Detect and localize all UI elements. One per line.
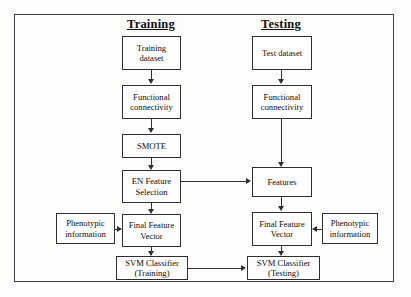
connector-phenotypic-test xyxy=(317,229,322,230)
node-smote[interactable]: SMOTE xyxy=(122,134,181,158)
node-en-feature-selection[interactable]: EN Feature Selection xyxy=(122,170,181,203)
node-svm-testing-line1: SVM Classifier xyxy=(250,258,317,268)
node-test-phenotypic-line2: information xyxy=(325,229,375,239)
node-train-functional-line2: connectivity xyxy=(125,102,178,112)
node-train-functional-connectivity[interactable]: Functional connectivity xyxy=(122,85,181,119)
node-train-final-vector-line1: Final Feature xyxy=(125,220,178,230)
connector-svm-train-to-test xyxy=(188,268,242,269)
node-test-functional-connectivity[interactable]: Functional connectivity xyxy=(252,85,312,119)
arrowhead-svm-train-to-test xyxy=(241,265,246,271)
node-test-phenotypic-information[interactable]: Phenotypic information xyxy=(322,213,378,244)
arrowhead-phenotypic-train xyxy=(117,226,122,232)
node-training-dataset-line2: dataset xyxy=(125,53,178,63)
diagram-canvas: Training Testing Training dataset Functi… xyxy=(0,0,411,297)
arrowhead-phenotypic-test xyxy=(312,226,317,232)
node-svm-training-line1: SVM Classifier xyxy=(119,258,185,268)
node-test-functional-line2: connectivity xyxy=(255,102,309,112)
node-train-phenotypic-line2: information xyxy=(59,229,112,239)
node-svm-training-line2: (Training) xyxy=(119,268,185,278)
node-features[interactable]: Features xyxy=(252,167,312,197)
node-training-dataset[interactable]: Training dataset xyxy=(122,36,181,70)
node-train-final-feature-vector[interactable]: Final Feature Vector xyxy=(122,214,181,247)
node-train-final-vector-line2: Vector xyxy=(125,231,178,241)
node-smote-label: SMOTE xyxy=(125,141,178,151)
node-en-feature-line2: Selection xyxy=(125,187,178,197)
node-test-phenotypic-line1: Phenotypic xyxy=(325,218,375,228)
node-svm-classifier-testing[interactable]: SVM Classifier (Testing) xyxy=(247,256,320,280)
column-title-testing: Testing xyxy=(240,17,322,32)
node-test-final-feature-vector[interactable]: Final Feature Vector xyxy=(252,212,312,246)
node-test-dataset[interactable]: Test dataset xyxy=(252,36,312,70)
node-test-functional-line1: Functional xyxy=(255,92,309,102)
connector-en-to-features xyxy=(181,181,247,182)
arrowhead-test-1 xyxy=(278,79,284,84)
node-features-label: Features xyxy=(255,177,309,187)
node-test-final-vector-line1: Final Feature xyxy=(255,219,309,229)
connector-test-2 xyxy=(281,119,282,163)
node-test-final-vector-line2: Vector xyxy=(255,229,309,239)
arrowhead-test-3 xyxy=(278,206,284,211)
node-train-phenotypic-information[interactable]: Phenotypic information xyxy=(56,213,115,244)
node-svm-testing-line2: (Testing) xyxy=(250,268,317,278)
node-svm-classifier-training[interactable]: SVM Classifier (Training) xyxy=(116,256,188,280)
node-en-feature-line1: EN Feature xyxy=(125,176,178,186)
arrowhead-en-to-features xyxy=(246,178,251,184)
node-training-dataset-line1: Training xyxy=(125,43,178,53)
arrowhead-train-1 xyxy=(148,79,154,84)
node-test-dataset-label: Test dataset xyxy=(255,48,309,58)
arrowhead-train-2 xyxy=(148,128,154,133)
column-title-training: Training xyxy=(110,17,192,32)
node-train-phenotypic-line1: Phenotypic xyxy=(59,218,112,228)
node-train-functional-line1: Functional xyxy=(125,92,178,102)
